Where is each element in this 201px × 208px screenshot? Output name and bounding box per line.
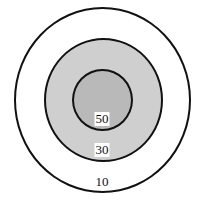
middle-ring-score-label: 30: [95, 143, 110, 157]
dartboard-target: 50 30 10: [0, 0, 201, 208]
inner-ring-score-label: 50: [95, 112, 110, 126]
outer-ring-score-label: 10: [95, 175, 110, 189]
